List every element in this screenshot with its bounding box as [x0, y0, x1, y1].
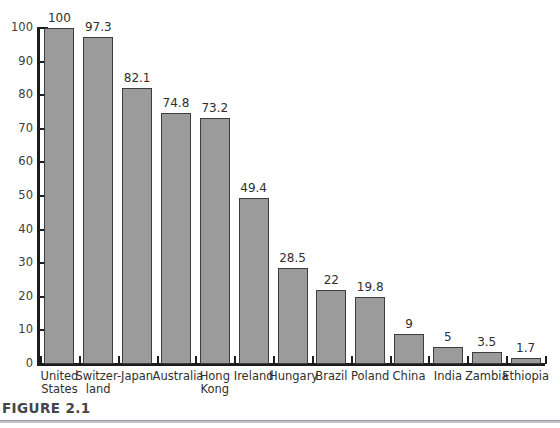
- bar: [511, 358, 541, 364]
- y-axis-tick-label: 10: [5, 324, 33, 336]
- bar: [433, 347, 463, 364]
- x-axis-tick: [40, 356, 42, 364]
- figure-caption-block: FIGURE 2.1: [0, 398, 560, 428]
- x-axis-tick: [312, 356, 314, 364]
- bar-value-label: 9: [379, 318, 439, 330]
- x-axis-tick: [195, 356, 197, 364]
- figure-container: 0102030405060708090100 10097.382.174.873…: [0, 0, 560, 428]
- x-axis-tick: [390, 356, 392, 364]
- bar: [161, 113, 191, 364]
- x-axis-category-label-line: land: [75, 383, 122, 396]
- bar-chart-plot-area: 0102030405060708090100 10097.382.174.873…: [0, 0, 560, 398]
- y-axis-tick-label: 60: [5, 156, 33, 168]
- x-axis-tick: [467, 356, 469, 364]
- y-axis-tick-label-wrap: 30: [0, 257, 33, 269]
- x-axis-tick: [428, 356, 430, 364]
- x-axis-category-label-line: Kong: [191, 383, 238, 396]
- bar: [355, 297, 385, 364]
- y-axis-tick-label: 0: [5, 358, 33, 370]
- bar-value-label: 1.7: [496, 342, 556, 354]
- x-axis-tick: [118, 356, 120, 364]
- y-axis-tick-label-wrap: 90: [0, 56, 33, 68]
- x-axis-tick: [79, 356, 81, 364]
- y-axis-tick-label-wrap: 70: [0, 123, 33, 135]
- y-axis-tick-label-wrap: 100: [0, 22, 33, 34]
- x-axis-category-label-line: Ethiopia: [502, 370, 549, 383]
- bar-value-label: 73.2: [185, 102, 245, 114]
- bar: [122, 88, 152, 364]
- x-axis-tick: [157, 356, 159, 364]
- y-axis-tick-label-wrap: 50: [0, 190, 33, 202]
- bar: [83, 37, 113, 364]
- bar-value-label: 19.8: [340, 281, 400, 293]
- y-axis-tick-label-wrap: 80: [0, 89, 33, 101]
- x-axis-tick: [351, 356, 353, 364]
- x-axis-tick: [273, 356, 275, 364]
- x-axis-tick: [545, 356, 547, 364]
- bar-value-label: 49.4: [224, 182, 284, 194]
- bar-value-label: 97.3: [68, 21, 128, 33]
- bar: [44, 28, 74, 364]
- y-axis-tick-label: 50: [5, 190, 33, 202]
- bar-value-label: 82.1: [107, 72, 167, 84]
- y-axis-tick-label-wrap: 60: [0, 156, 33, 168]
- bar: [239, 198, 269, 364]
- x-axis-category-label: Ethiopia: [502, 370, 549, 383]
- bar-value-label: 28.5: [263, 252, 323, 264]
- bar: [316, 290, 346, 364]
- y-axis-tick-label: 20: [5, 291, 33, 303]
- y-axis-tick-label: 80: [5, 89, 33, 101]
- figure-caption-divider: [0, 420, 560, 423]
- y-axis-tick-label: 30: [5, 257, 33, 269]
- x-axis-tick: [234, 356, 236, 364]
- figure-caption-label: FIGURE 2.1: [2, 400, 91, 416]
- x-axis-tick: [506, 356, 508, 364]
- y-axis-tick-label: 70: [5, 123, 33, 135]
- bar: [200, 118, 230, 364]
- y-axis-tick-label: 90: [5, 56, 33, 68]
- y-axis-tick-label: 40: [5, 224, 33, 236]
- y-axis-tick-label-wrap: 40: [0, 224, 33, 236]
- y-axis-tick-label-wrap: 20: [0, 291, 33, 303]
- y-axis-tick-label-wrap: 10: [0, 324, 33, 336]
- y-axis-tick-label-wrap: 0: [0, 358, 33, 370]
